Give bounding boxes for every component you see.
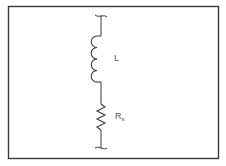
inductor-label-text: L (114, 53, 119, 63)
inductor-icon (91, 36, 101, 82)
inductor-label: L (114, 54, 119, 63)
circuit-diagram (0, 0, 226, 166)
diagram-frame (9, 7, 219, 159)
resistor-icon (97, 104, 105, 130)
resistor-label: Rs (115, 112, 125, 122)
resistor-label-subscript: s (122, 116, 125, 122)
